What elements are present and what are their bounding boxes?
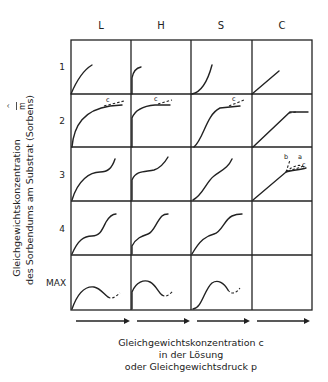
curve-smax (193, 281, 228, 309)
curve-s2 (194, 106, 240, 147)
y-axis-m: m (18, 102, 27, 110)
svg-text:c: c (232, 95, 236, 103)
curve-l3 (72, 159, 115, 200)
curve-lmax (72, 287, 108, 309)
curve-l4 (72, 214, 116, 254)
curve-l1 (71, 65, 92, 94)
curve-s1 (192, 65, 212, 94)
curve-c1 (252, 71, 279, 94)
row-label-2: 2 (59, 116, 65, 126)
curve-h2 (132, 105, 170, 147)
svg-text:in der Lösung: in der Lösung (159, 349, 223, 360)
column-label-h: H (157, 20, 165, 31)
curve-s4 (192, 214, 242, 254)
row-label-max: MAX (46, 278, 66, 288)
isotherm-classification-diagram: L H S C 1 2 3 4 MAX Gleichgewichtskonzen… (0, 0, 328, 382)
row-1-curves (71, 65, 279, 94)
x-axis-label: Gleichgewichtskonzentration c in der Lös… (118, 337, 264, 372)
svg-text:Gleichgewichtskonzentration: Gleichgewichtskonzentration (11, 139, 22, 276)
svg-text:c: c (106, 96, 110, 104)
row-3-curves: b a c (72, 153, 306, 200)
curve-hmax (132, 281, 162, 309)
curve-h4 (132, 214, 168, 254)
svg-text:des Sorbendums am Substrat (So: des Sorbendums am Substrat (Sorbens) (24, 95, 35, 285)
label-b: b (284, 153, 288, 161)
row-4-curves (72, 214, 242, 254)
column-label-l: L (98, 20, 104, 31)
column-label-c: C (279, 20, 286, 31)
curve-h1 (132, 67, 141, 94)
curve-s3 (193, 159, 232, 200)
svg-text:c: c (154, 95, 158, 103)
label-c: c (302, 161, 306, 169)
curve-c2 (253, 112, 308, 147)
row-label-3: 3 (59, 170, 65, 180)
row-label-1: 1 (59, 62, 65, 72)
y-axis-hat: ^ (6, 103, 14, 108)
label-a: a (298, 153, 302, 161)
curve-h3 (132, 157, 168, 200)
x-axis-arrows (76, 318, 310, 324)
svg-text:oder Gleichgewichtsdruck p: oder Gleichgewichtsdruck p (125, 361, 257, 372)
row-2-curves: c c c (72, 95, 308, 147)
row-label-4: 4 (59, 224, 65, 234)
column-label-s: S (218, 20, 224, 31)
curve-l2 (72, 105, 122, 147)
curve-c3 (253, 168, 306, 200)
grid (71, 40, 312, 310)
svg-text:Gleichgewichtskonzentration c: Gleichgewichtskonzentration c (118, 337, 264, 348)
row-max-curves (72, 281, 240, 309)
y-axis-label: Gleichgewichtskonzentration des Sorbendu… (6, 95, 35, 285)
